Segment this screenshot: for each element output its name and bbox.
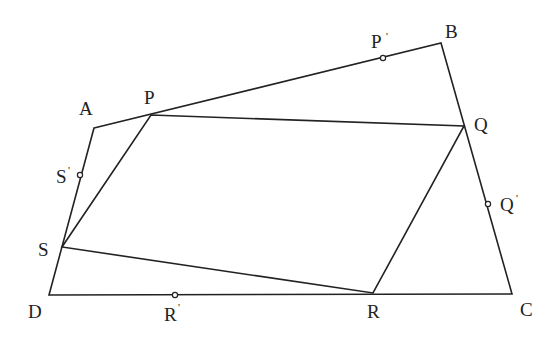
label-q-prime: Q — [500, 194, 514, 215]
label-s: S — [38, 239, 49, 260]
label-s-prime-mark: ' — [68, 164, 70, 176]
quadrilateral-pqrs — [62, 115, 464, 293]
quadrilateral-abcd — [49, 43, 512, 295]
label-p-prime: P — [371, 31, 382, 52]
label-b: B — [445, 21, 458, 42]
point-p-prime — [380, 55, 385, 60]
label-d: D — [28, 301, 42, 322]
label-p: P — [144, 87, 155, 108]
label-a: A — [79, 98, 93, 119]
label-p-prime-mark: ' — [386, 30, 388, 42]
label-c: C — [520, 299, 533, 320]
point-s-prime — [77, 172, 82, 177]
label-r-prime-mark: ' — [178, 301, 180, 313]
label-q: Q — [474, 114, 488, 135]
label-q-prime-mark: ' — [516, 192, 518, 204]
label-r-prime: R — [164, 304, 177, 325]
label-r: R — [367, 301, 380, 322]
geometry-diagram: A B C D P Q R S P ' Q ' R ' S ' — [0, 0, 557, 348]
point-q-prime — [485, 201, 490, 206]
label-s-prime: S — [56, 166, 67, 187]
point-r-prime — [172, 292, 177, 297]
